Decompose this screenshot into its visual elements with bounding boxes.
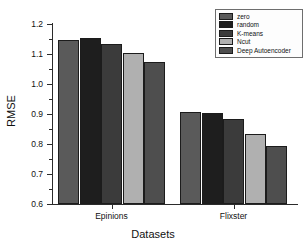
legend-label: K-means: [237, 30, 263, 37]
legend-label: Deep Autoencoder: [237, 47, 291, 54]
legend-item-k-means: K-means: [219, 29, 299, 37]
legend-swatch-icon: [219, 47, 233, 54]
legend-swatch-icon: [219, 30, 233, 37]
x-tick-label-epinions: Epinions: [95, 211, 128, 221]
y-axis-title: RMSE: [5, 76, 17, 146]
bar-flixster-random: [202, 113, 223, 204]
y-tick-label: 1.2: [0, 20, 43, 28]
bar-epinions-zero: [58, 40, 79, 204]
bar-epinions-random: [80, 38, 101, 205]
x-tick-mark: [112, 205, 113, 209]
legend-swatch-icon: [219, 13, 233, 20]
bar-epinions-ncut: [123, 53, 144, 204]
bar-flixster-ncut: [245, 134, 266, 205]
bar-epinions-k-means: [101, 44, 122, 204]
legend-item-ncut: Ncut: [219, 38, 299, 46]
y-tick-label: 0.6: [0, 200, 43, 208]
legend-item-random: random: [219, 21, 299, 29]
bar-flixster-zero: [180, 112, 201, 204]
bar-chart-figure: 0.60.70.80.91.01.11.2 EpinionsFlixster R…: [0, 0, 306, 251]
y-tick-label: 1.1: [0, 50, 43, 58]
legend-item-deep-autoencoder: Deep Autoencoder: [219, 46, 299, 54]
x-axis-line: [52, 204, 298, 205]
x-tick-label-flixster: Flixster: [220, 211, 247, 221]
y-tick-label: 0.7: [0, 170, 43, 178]
bar-flixster-k-means: [223, 119, 244, 204]
legend-swatch-icon: [219, 38, 233, 45]
legend-swatch-icon: [219, 21, 233, 28]
legend-item-zero: zero: [219, 12, 299, 20]
x-axis-title: Datasets: [0, 228, 306, 240]
legend-label: Ncut: [237, 38, 250, 45]
legend-label: zero: [237, 13, 250, 20]
legend-label: random: [237, 21, 259, 28]
y-tick-mark: [47, 204, 52, 205]
x-tick-mark: [234, 205, 235, 209]
bar-flixster-deep-autoencoder: [266, 146, 287, 204]
chart-legend: zerorandomK-meansNcutDeep Autoencoder: [215, 9, 303, 58]
bar-epinions-deep-autoencoder: [144, 62, 165, 204]
